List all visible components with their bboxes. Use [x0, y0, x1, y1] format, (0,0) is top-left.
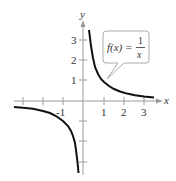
- y-tick-label-3: 3: [71, 34, 77, 46]
- callout-lhs: f(x) =: [107, 41, 132, 54]
- x-tick-label-3: 3: [141, 106, 147, 118]
- x-axis-arrow-icon: [156, 99, 163, 104]
- y-axis-label: y: [79, 8, 85, 20]
- y-tick-label-2: 2: [71, 54, 77, 66]
- callout-denominator: x: [136, 49, 142, 60]
- function-callout: f(x) = 1 x: [103, 31, 149, 79]
- y-axis-arrow-icon: [81, 20, 86, 27]
- callout-numerator: 1: [138, 35, 143, 46]
- x-tick-label-2: 2: [121, 106, 127, 118]
- y-tick-label-1: 1: [71, 74, 77, 86]
- x-tick-label-1: 1: [101, 106, 107, 118]
- x-axis-label: x: [163, 94, 169, 106]
- curve-negative-branch: [14, 107, 79, 173]
- chart: -1 1 2 3 1 2 3 x y f(x) = 1 x: [0, 0, 176, 181]
